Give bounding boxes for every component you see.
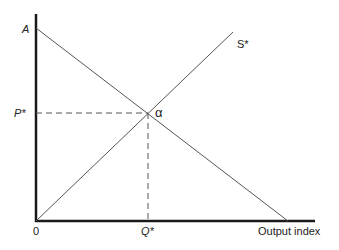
label-q-star: Q* (141, 225, 155, 237)
demand-curve (36, 28, 288, 221)
label-origin: 0 (33, 225, 39, 237)
label-a: A (21, 23, 29, 35)
supply-curve-s-star (36, 32, 233, 221)
label-p-star: P* (14, 107, 26, 119)
label-alpha: α (155, 105, 163, 120)
x-axis-label: Output index (258, 225, 321, 237)
label-s-star: S* (237, 38, 249, 50)
equilibrium-diagram: A S* α P* Q* 0 Output index (0, 0, 339, 250)
